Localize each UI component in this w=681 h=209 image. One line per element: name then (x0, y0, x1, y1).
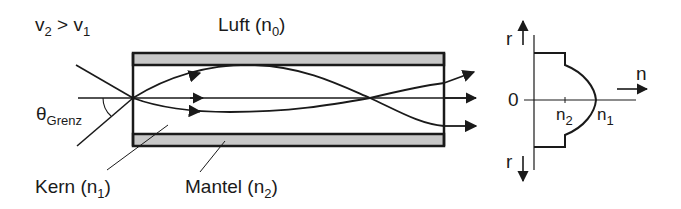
air-label: Luft (n0) (218, 14, 285, 39)
core-label: Kern (n1) (35, 176, 111, 201)
fiber (133, 53, 444, 146)
ray-exit-upper (444, 72, 474, 83)
index-profile: r r n 0 n2 n1 (506, 21, 647, 181)
r-bottom-label: r (506, 151, 513, 172)
acceptance-angle-label: θGrenz (36, 103, 82, 128)
ray-lower-arrow-head (190, 111, 200, 112)
cladding-label: Mantel (n2) (185, 176, 278, 201)
incoming-ray-upper (76, 65, 133, 98)
origin-label: 0 (508, 89, 519, 110)
cladding-bottom (133, 134, 444, 146)
n-axis-label: n (636, 63, 647, 84)
acceptance-angle-arc (103, 98, 111, 116)
ray-upper-path (133, 65, 444, 126)
n1-label: n1 (597, 105, 614, 128)
n2-label: n2 (556, 105, 573, 128)
diagram-svg: v2 > v1 Luft (n0) θGrenz Kern (n1) Mante… (0, 0, 681, 209)
cladding-top (133, 53, 444, 65)
core-leader-line (107, 125, 168, 170)
r-top-label: r (506, 28, 513, 49)
fiber-diagram: v2 > v1 Luft (n0) θGrenz Kern (n1) Mante… (0, 0, 681, 209)
ray-upper-arrow-head (190, 73, 200, 76)
incoming-ray-lower (77, 98, 133, 146)
velocity-relation-label: v2 > v1 (35, 14, 90, 39)
